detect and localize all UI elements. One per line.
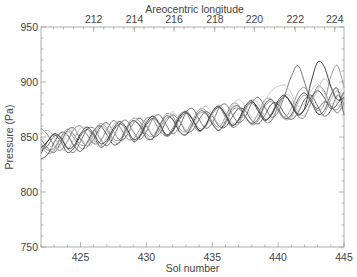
top-tick-label: 212 (85, 13, 103, 25)
y-tick-label: 800 (20, 186, 38, 198)
series-line-5 (41, 88, 344, 159)
pressure-chart: 4254304354404457508008509009502122142162… (0, 0, 357, 277)
plot-frame (41, 27, 344, 247)
y-tick-label: 750 (20, 241, 38, 253)
y-tick-label: 850 (20, 131, 38, 143)
top-axis-title: Areocentric longitude (145, 3, 244, 15)
top-tick-label: 222 (286, 13, 304, 25)
series-line-10 (41, 61, 344, 148)
series-line-8 (41, 65, 344, 150)
y-tick-label: 900 (20, 76, 38, 88)
y-axis-title: Pressure (Pa) (3, 105, 15, 170)
x-tick-label: 440 (269, 251, 287, 263)
x-axis-title: Sol number (166, 262, 220, 274)
series-line-7 (41, 65, 344, 152)
top-tick-label: 224 (326, 13, 344, 25)
x-tick-label: 425 (72, 251, 90, 263)
series-layer (41, 61, 344, 159)
x-tick-label: 445 (335, 251, 353, 263)
x-tick-label: 430 (138, 251, 156, 263)
top-tick-label: 220 (246, 13, 264, 25)
y-tick-label: 950 (20, 21, 38, 33)
ticks-layer: 4254304354404457508008509009502122142162… (20, 13, 352, 263)
top-tick-label: 214 (126, 13, 144, 25)
